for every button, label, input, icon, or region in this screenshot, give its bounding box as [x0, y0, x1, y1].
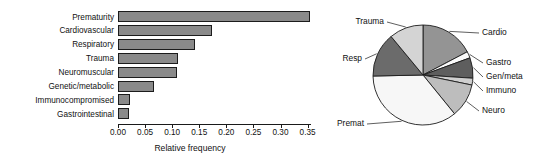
bar-rect [118, 11, 310, 22]
x-tick-mark [253, 124, 254, 128]
pie-slice-label: Immuno [486, 85, 516, 95]
pie-slice-label: Neuro [482, 105, 505, 115]
bar-category-label: Immunocompromised [35, 95, 114, 104]
bar-row: Respiratory [0, 39, 330, 50]
bar-row: Genetic/metabolic [0, 81, 330, 92]
bar-row: Neuromuscular [0, 67, 330, 78]
bar-row: Cardiovascular [0, 25, 330, 36]
bar-category-label: Trauma [86, 54, 114, 63]
pie-slice-label: Gen/meta [486, 71, 523, 81]
pie-leader-line [474, 82, 483, 91]
x-tick-label: 0.15 [191, 128, 207, 138]
bar-chart: PrematurityCardiovascularRespiratoryTrau… [0, 0, 330, 167]
pie-leader-line [467, 101, 479, 111]
x-tick-mark [199, 124, 200, 128]
x-tick-label: 0.10 [164, 128, 180, 138]
pie-slices [373, 25, 473, 125]
x-tick-mark [145, 124, 146, 128]
bar-category-label: Cardiovascular [59, 26, 114, 35]
bar-rect [118, 53, 178, 64]
bar-rect [118, 108, 129, 119]
pie-slice-label: Premat [330, 118, 364, 128]
x-tick-mark [172, 124, 173, 128]
figure-panel: PrematurityCardiovascularRespiratoryTrau… [0, 0, 543, 167]
x-tick-mark [308, 124, 309, 128]
x-tick-label: 0.20 [218, 128, 234, 138]
pie-slice-label: Cardio [482, 27, 507, 37]
x-tick-label: 0.25 [245, 128, 261, 138]
x-tick-label: 0.05 [137, 128, 153, 138]
pie-slice-label: Resp [330, 53, 362, 63]
pie-leader-line [367, 121, 402, 124]
bar-rect [118, 67, 177, 78]
bar-rect [118, 25, 212, 36]
bar-category-label: Prematurity [72, 12, 114, 21]
x-axis-title: Relative frequency [0, 143, 330, 153]
bar-row: Trauma [0, 53, 330, 64]
x-axis-line [118, 124, 311, 125]
pie-slice-label: Gastro [486, 57, 511, 67]
x-axis-title-text: Relative frequency [154, 143, 225, 153]
x-tick-mark [118, 124, 119, 128]
bar-row: Prematurity [0, 11, 330, 22]
bar-rect [118, 81, 154, 92]
pie-slice-label: Trauma [330, 16, 384, 26]
pie-chart: CardioGastroGen/metaImmunoNeuroPrematRes… [330, 0, 543, 167]
bar-rect [118, 39, 195, 50]
x-tick-label: 0.00 [110, 128, 126, 138]
bar-category-label: Respiratory [72, 40, 114, 49]
pie-leader-line [387, 22, 406, 27]
bar-rect [118, 94, 130, 105]
bar-row: Immunocompromised [0, 94, 330, 105]
x-tick-mark [226, 124, 227, 128]
pie-leader-line [365, 54, 377, 59]
pie-leader-line [449, 31, 479, 33]
x-tick-label: 0.35 [300, 128, 316, 138]
bar-category-label: Neuromuscular [58, 68, 114, 77]
pie-leader-line [473, 68, 483, 77]
bar-category-label: Genetic/metabolic [48, 82, 114, 91]
bar-row: Gastrointestinal [0, 108, 330, 119]
x-tick-mark [281, 124, 282, 128]
x-tick-label: 0.30 [273, 128, 289, 138]
bar-category-label: Gastrointestinal [57, 109, 114, 118]
